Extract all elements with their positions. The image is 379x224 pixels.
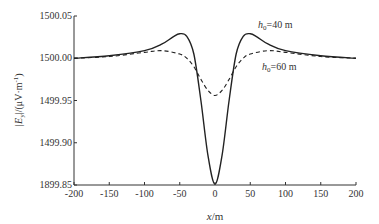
y-tick-label: 1500.05 xyxy=(40,10,73,21)
series-h60-line xyxy=(74,51,356,96)
x-tick-label: -150 xyxy=(100,188,118,199)
annotations: h0=40 mh0=60 m xyxy=(258,19,297,74)
series xyxy=(74,34,356,185)
x-tick-label: 0 xyxy=(213,188,218,199)
y-tick-label: 1499.90 xyxy=(40,137,73,148)
y-axis-label: |Ey|/(μV·m-1) xyxy=(12,73,26,126)
axes xyxy=(74,16,356,185)
y-tick-label: 1899.85 xyxy=(40,179,73,190)
y-tick-label: 1500.00 xyxy=(40,52,73,63)
x-tick-label: -100 xyxy=(135,188,153,199)
x-tick-label: 200 xyxy=(349,188,364,199)
x-tick-label: 100 xyxy=(278,188,293,199)
x-tick-label: 150 xyxy=(313,188,328,199)
series-annotation: h0=60 m xyxy=(262,61,297,74)
x-tick-label: -50 xyxy=(173,188,186,199)
series-annotation: h0=40 m xyxy=(258,19,293,32)
x-axis-label: x/m xyxy=(206,210,224,222)
x-tick-label: 50 xyxy=(245,188,255,199)
line-chart: -200-150-100-500501001502001899.851499.9… xyxy=(0,0,379,224)
y-tick-label: 1499.95 xyxy=(40,95,73,106)
